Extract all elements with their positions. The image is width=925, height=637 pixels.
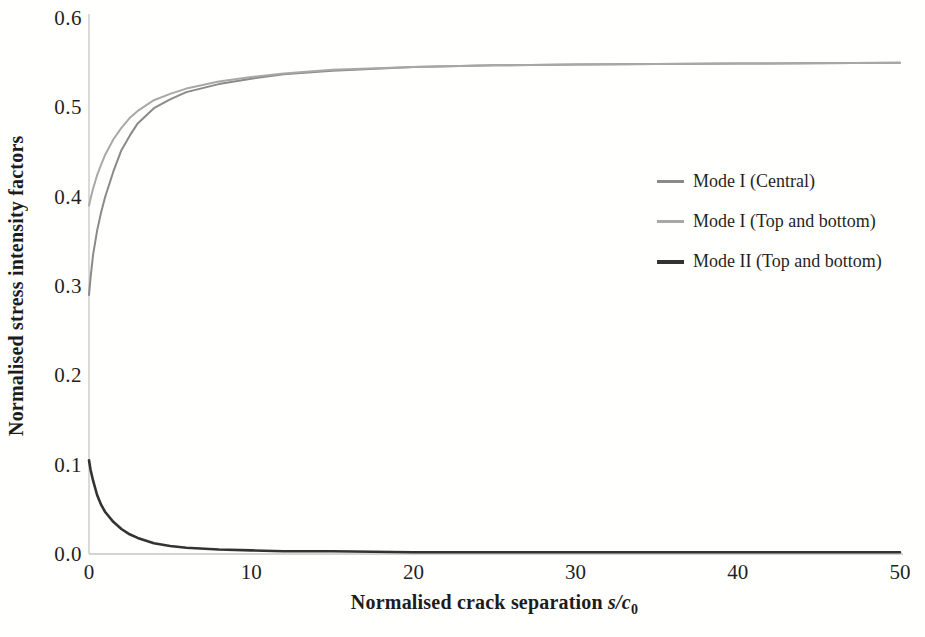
x-axis-title-subscript: 0: [631, 602, 638, 617]
x-tick-label: 10: [221, 559, 281, 585]
y-tick-label: 0.2: [28, 362, 82, 388]
x-tick-label: 30: [546, 559, 606, 585]
y-tick-label: 0.1: [28, 452, 82, 478]
x-tick-label: 20: [383, 559, 443, 585]
legend-item-mode-i-central: Mode I (Central): [657, 168, 882, 195]
legend-label-mode-i-central: Mode I (Central): [693, 171, 815, 192]
y-tick-label: 0.4: [28, 184, 82, 210]
x-axis-title-text: Normalised crack separation: [351, 591, 608, 613]
legend-swatch-mode-i-central: [657, 180, 684, 183]
legend-label-mode-ii-top-bottom: Mode II (Top and bottom): [693, 251, 882, 272]
legend-swatch-mode-ii-top-bottom: [657, 260, 684, 264]
legend-swatch-mode-i-top-bottom: [657, 220, 684, 223]
x-axis-title: Normalised crack separation s/c0: [89, 591, 900, 614]
legend: Mode I (Central) Mode I (Top and bottom)…: [657, 168, 882, 288]
x-tick-label: 40: [708, 559, 768, 585]
y-axis-title: Normalised stress intensity factors: [2, 18, 30, 554]
y-tick-label: 0.5: [28, 94, 82, 120]
legend-item-mode-i-top-bottom: Mode I (Top and bottom): [657, 208, 882, 235]
chart-figure: 0.00.10.20.30.40.50.6 01020304050 Normal…: [0, 0, 925, 637]
y-tick-label: 0.6: [28, 5, 82, 31]
y-tick-label: 0.3: [28, 273, 82, 299]
x-tick-label: 0: [59, 559, 119, 585]
legend-label-mode-i-top-bottom: Mode I (Top and bottom): [693, 211, 876, 232]
x-axis-title-variable: s/c: [608, 591, 631, 613]
legend-item-mode-ii-top-bottom: Mode II (Top and bottom): [657, 248, 882, 275]
x-tick-label: 50: [870, 559, 925, 585]
series-line-3: [89, 460, 900, 552]
plot-svg: [0, 0, 925, 637]
